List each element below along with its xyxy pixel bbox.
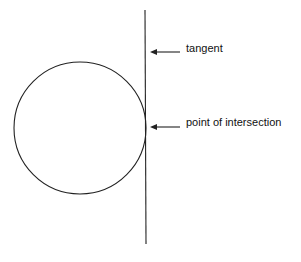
tangent-diagram	[0, 0, 301, 262]
circle-shape	[14, 62, 146, 194]
tangent-label: tangent	[186, 42, 223, 54]
tangent-line	[145, 10, 146, 244]
point-of-intersection-label: point of intersection	[186, 116, 281, 128]
